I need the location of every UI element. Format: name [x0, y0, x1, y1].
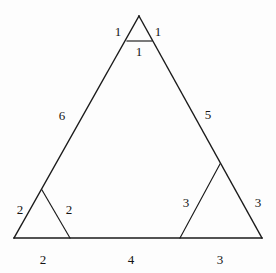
- label-base-left-segment: 2: [40, 253, 47, 266]
- label-bottom-right-triangle-left-side: 3: [183, 196, 190, 209]
- label-main-right-side: 5: [205, 108, 212, 121]
- label-apex-base: 1: [136, 45, 143, 58]
- main-triangle-right-edge: [139, 16, 262, 238]
- label-apex-left-side: 1: [115, 25, 122, 38]
- label-main-left-side: 6: [59, 109, 66, 122]
- label-bottom-right-triangle-right-side: 3: [255, 196, 262, 209]
- triangle-diagram-canvas: [0, 0, 276, 273]
- label-apex-right-side: 1: [155, 25, 162, 38]
- geometry-figure: 1 1 1 6 5 2 2 3 3 2 4 3: [0, 0, 276, 273]
- main-triangle-left-edge: [14, 16, 139, 238]
- label-base-right-segment: 3: [217, 253, 224, 266]
- label-base-middle-segment: 4: [128, 253, 135, 266]
- label-bottom-left-triangle-left-side: 2: [17, 203, 24, 216]
- label-bottom-left-triangle-right-side: 2: [66, 203, 73, 216]
